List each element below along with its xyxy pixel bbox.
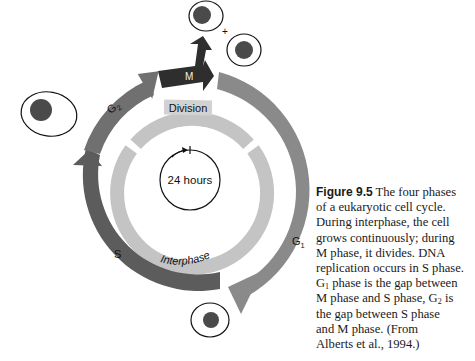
phase-m-arrow: M xyxy=(158,36,214,91)
figure-caption: Figure 9.5 The four phases of a eukaryot… xyxy=(316,185,475,352)
cell-bottom xyxy=(191,303,229,337)
m-label: M xyxy=(185,71,193,82)
cell-left xyxy=(18,87,81,140)
center-label: 24 hours xyxy=(168,174,213,186)
cell-top-right xyxy=(227,34,261,66)
inner-ring xyxy=(110,112,274,275)
phase-g2-arrow: G2 xyxy=(84,70,163,154)
division-label: Division xyxy=(164,100,212,116)
division-ring-segment xyxy=(130,112,253,149)
clock-circle: 24 hours xyxy=(160,146,220,210)
figure-number: Figure 9.5 xyxy=(316,185,373,199)
svg-text:Division: Division xyxy=(169,102,208,114)
plus-sign: + xyxy=(222,26,228,37)
cell-top xyxy=(189,1,223,31)
s-label: S xyxy=(114,248,121,260)
